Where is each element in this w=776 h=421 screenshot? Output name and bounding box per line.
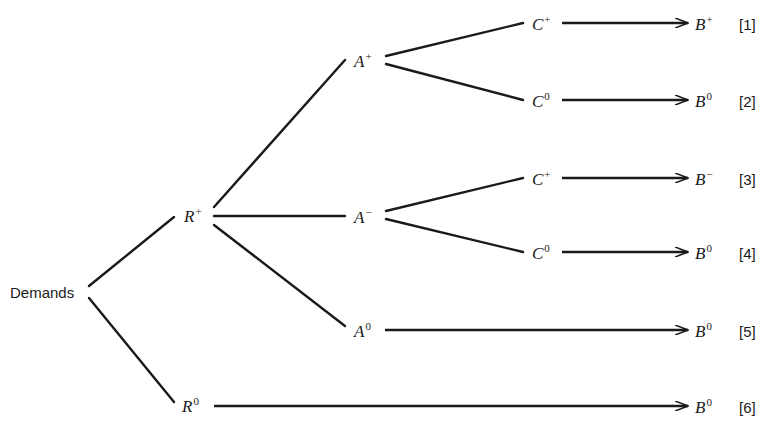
outcome-b-2: B0 (695, 93, 712, 110)
node-base: R (182, 397, 192, 416)
tree-edges (0, 0, 776, 421)
edge-demands-rzero (89, 298, 174, 402)
node-base: C (532, 15, 543, 34)
edge-aplus-c2 (386, 64, 523, 100)
node-sup: 0 (544, 90, 550, 102)
node-r-plus: R+ (184, 208, 202, 225)
edge-demands-rplus (89, 217, 174, 286)
decision-tree-diagram: Demands R+ R0 A+ A− A0 C+ C0 C+ C0 B+ B0… (0, 0, 776, 421)
node-c-plus-3: C+ (532, 171, 551, 188)
outcome-sup: 0 (706, 242, 712, 254)
outcome-sup: 0 (706, 396, 712, 408)
outcome-b-4: B0 (695, 245, 712, 262)
node-sup: + (544, 168, 550, 180)
outcome-index-3: [3] (739, 172, 756, 187)
node-sup: 0 (193, 395, 199, 407)
outcome-b-5: B0 (695, 323, 712, 340)
node-base: C (532, 244, 543, 263)
outcome-base: B (695, 322, 705, 341)
outcome-sup: − (706, 168, 712, 180)
node-c-plus-1: C+ (532, 16, 551, 33)
outcome-base: B (695, 398, 705, 417)
node-sup: + (195, 205, 201, 217)
outcome-index-5: [5] (739, 324, 756, 339)
outcome-b-3: B− (695, 171, 713, 188)
node-base: A (354, 52, 364, 71)
outcome-base: B (695, 15, 705, 34)
node-base: A (354, 208, 364, 227)
edge-rplus-aplus (214, 60, 345, 207)
outcome-index-4: [4] (739, 246, 756, 261)
node-sup: 0 (544, 242, 550, 254)
outcome-sup: 0 (706, 90, 712, 102)
node-a-minus: A− (354, 209, 372, 226)
outcome-sup: + (706, 13, 712, 25)
outcome-sup: 0 (706, 320, 712, 332)
outcome-b-1: B+ (695, 16, 713, 33)
node-base: A (354, 322, 364, 341)
node-base: R (184, 207, 194, 226)
node-a-plus: A+ (354, 53, 372, 70)
edge-aplus-c1 (386, 23, 523, 56)
node-sup: + (365, 50, 371, 62)
outcome-base: B (695, 92, 705, 111)
outcome-base: B (695, 244, 705, 263)
outcome-index-6: [6] (739, 400, 756, 415)
node-sup: − (365, 206, 371, 218)
node-base: C (532, 92, 543, 111)
edge-aminus-c4 (386, 219, 523, 252)
outcome-index-2: [2] (739, 94, 756, 109)
edge-rplus-azero (214, 225, 345, 326)
root-node-demands: Demands (10, 285, 74, 300)
node-sup: 0 (365, 320, 371, 332)
outcome-base: B (695, 170, 705, 189)
node-r-zero: R0 (182, 398, 199, 415)
outcome-b-6: B0 (695, 399, 712, 416)
node-c-zero-2: C0 (532, 93, 550, 110)
outcome-index-1: [1] (739, 17, 756, 32)
node-c-zero-4: C0 (532, 245, 550, 262)
node-a-zero: A0 (354, 323, 371, 340)
node-sup: + (544, 13, 550, 25)
edge-aminus-c3 (386, 178, 523, 211)
node-base: C (532, 170, 543, 189)
